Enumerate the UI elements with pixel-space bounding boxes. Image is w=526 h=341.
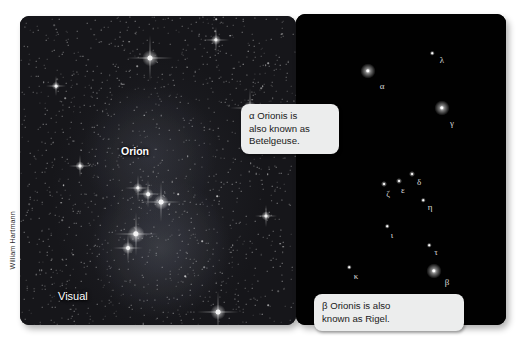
star-label-epsilon: ε (401, 185, 405, 195)
star-label-zeta: ζ (386, 189, 390, 199)
chart-background (296, 14, 506, 325)
photo-label-orion: Orion (121, 145, 149, 157)
star-label-iota: ι (391, 230, 393, 240)
star-label-kappa: κ (354, 271, 359, 281)
star-label-gamma: γ (450, 118, 454, 128)
chart-star-tau (428, 244, 430, 246)
betelgeuse-callout: α Orionis is also known as Betelgeuse. (241, 104, 339, 154)
chart-star-zeta (383, 183, 385, 185)
orion-photograph-panel: Orion Visual (20, 16, 296, 325)
orion-figure: Orion Visual αλγδεζηιτβκ α Orionis is al… (0, 0, 526, 341)
chart-star-iota (386, 225, 388, 227)
chart-star-kappa (348, 266, 350, 268)
photograph-label-layer: Orion Visual (20, 16, 296, 325)
rigel-callout: β Orionis is also known as Rigel. (314, 294, 464, 331)
chart-star-delta (411, 173, 413, 175)
star-label-tau: τ (434, 247, 438, 257)
chart-star-eta (422, 199, 424, 201)
star-label-alpha: α (380, 81, 385, 91)
chart-star-lambda (431, 52, 433, 54)
photo-label-visual: Visual (58, 290, 88, 302)
orion-chart-panel: αλγδεζηιτβκ (296, 14, 506, 325)
image-credit: William Hartmann (8, 150, 17, 270)
star-label-lambda: λ (440, 55, 444, 65)
chart-star-epsilon (398, 180, 400, 182)
star-label-beta: β (445, 277, 450, 287)
star-label-delta: δ (417, 177, 421, 187)
star-label-eta: η (428, 202, 433, 212)
